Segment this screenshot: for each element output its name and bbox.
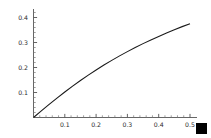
y-axis-major-ticks: [34, 18, 38, 93]
x-axis-tick-label: 0.5: [185, 121, 195, 128]
y-axis-tick-label: 0.4: [18, 14, 28, 21]
chart-plot-area: 0.10.20.30.4 0.10.20.30.40.5: [0, 0, 211, 138]
y-axis-tick-label: 0.1: [18, 89, 28, 96]
y-axis-minor-ticks: [34, 13, 36, 113]
data-series-curve: [34, 24, 191, 118]
y-axis-tick-label: 0.3: [18, 39, 28, 46]
y-axis-tick-labels: 0.10.20.30.4: [18, 14, 28, 96]
x-axis-tick-label: 0.4: [154, 121, 164, 128]
y-axis-tick-label: 0.2: [18, 64, 28, 71]
x-axis-tick-label: 0.2: [91, 121, 101, 128]
x-axis-tick-label: 0.3: [122, 121, 132, 128]
x-axis-tick-labels: 0.10.20.30.40.5: [60, 121, 195, 128]
x-axis: 0.10.20.30.40.5: [34, 114, 198, 128]
chart-figure: 0.10.20.30.4 0.10.20.30.40.5: [0, 0, 211, 138]
x-axis-tick-label: 0.1: [60, 121, 70, 128]
corner-square-marker: [196, 123, 207, 134]
y-axis: 0.10.20.30.4: [18, 9, 37, 118]
